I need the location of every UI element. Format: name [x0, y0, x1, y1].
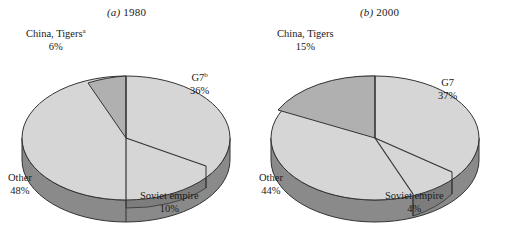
pie-label-soviet-empire-1980: Soviet empire 10% — [140, 190, 199, 215]
pie-label-g7-value-2000: 37% — [438, 90, 457, 103]
pie-label-china-tigers-text-1980: China, Tigersa — [26, 28, 86, 41]
pie-label-other-value-1980: 48% — [8, 185, 32, 198]
pie-panel-1980: (a) 1980 — [0, 0, 253, 229]
pie-label-other-1980: Other 48% — [8, 172, 32, 197]
pie-label-soviet-empire-text-2000: Soviet empire — [385, 190, 444, 203]
pie-label-g7-text-1980: G7b — [190, 72, 209, 85]
pie-label-other-value-2000: 44% — [259, 185, 283, 198]
footnote-marker-a: a — [83, 27, 86, 35]
footnote-marker-b: b — [204, 71, 208, 79]
pie-label-other-2000: Other 44% — [259, 172, 283, 197]
pie-label-china-tigers-value-1980: 6% — [26, 41, 86, 54]
pie-label-china-tigers-1980: China, Tigersa 6% — [26, 28, 86, 53]
pie-label-china-tigers-value-2000: 15% — [277, 41, 334, 54]
pie-label-china-tigers-2000: China, Tigers 15% — [277, 28, 334, 53]
pie-label-g7-value-1980: 36% — [190, 85, 209, 98]
pie-label-soviet-empire-value-1980: 10% — [140, 203, 199, 216]
pie-label-soviet-empire-value-2000: 4% — [385, 203, 444, 216]
pie-label-china-tigers-text-2000: China, Tigers — [277, 28, 334, 41]
figure-two-pie-charts: (a) 1980 — [0, 0, 506, 229]
pie-panel-2000: (b) 2000 — [253, 0, 506, 229]
pie-label-other-text-1980: Other — [8, 172, 32, 185]
pie-label-g7-text-2000: G7 — [438, 77, 457, 90]
pie-label-g7-1980: G7b 36% — [190, 72, 209, 97]
pie-label-other-text-2000: Other — [259, 172, 283, 185]
pie-label-soviet-empire-2000: Soviet empire 4% — [385, 190, 444, 215]
pie-label-g7-2000: G7 37% — [438, 77, 457, 102]
pie-label-soviet-empire-text-1980: Soviet empire — [140, 190, 199, 203]
